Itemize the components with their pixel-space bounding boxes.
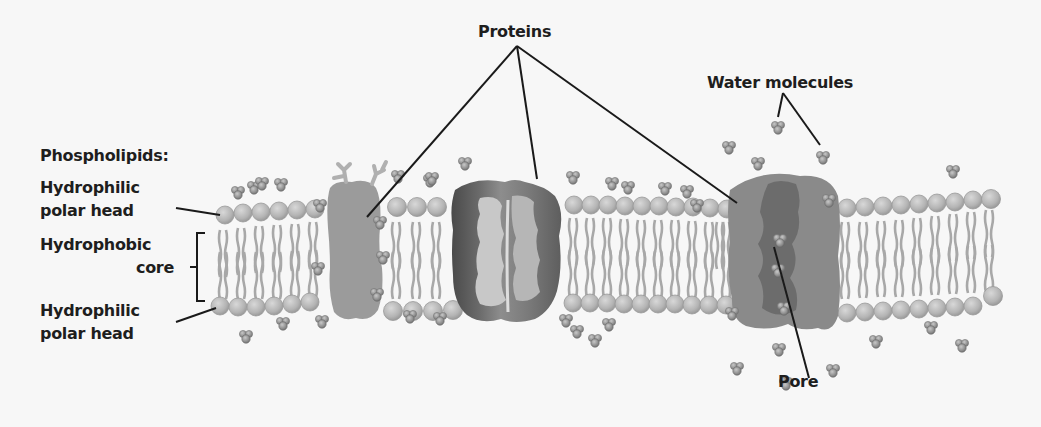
pore-label: Pore [778, 371, 818, 393]
bottom-head-line2: polar head [40, 323, 134, 345]
proteins-label: Proteins [478, 21, 551, 43]
water-molecules-label: Water molecules [707, 72, 853, 94]
top-head-line1: Hydrophilic [40, 177, 140, 199]
membrane-diagram: Proteins Water molecules Phospholipids: … [0, 0, 1041, 427]
channel-protein [451, 180, 561, 322]
phospholipids-label: Phospholipids: [40, 145, 169, 167]
top-head-line2: polar head [40, 200, 134, 222]
bottom-head-line1: Hydrophilic [40, 300, 140, 322]
membrane-illustration [0, 0, 1041, 427]
core-line2: core [40, 257, 174, 279]
core-line1: Hydrophobic [40, 234, 151, 256]
